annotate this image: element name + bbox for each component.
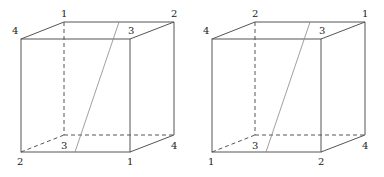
vertex-label: 4 bbox=[12, 25, 18, 36]
vertex-label: 1 bbox=[61, 8, 67, 19]
edge-top-left bbox=[21, 22, 64, 39]
vertex-label: 2 bbox=[318, 156, 324, 167]
vertex-label: 3 bbox=[128, 25, 134, 36]
vertex-label: 2 bbox=[252, 8, 258, 19]
vertex-label: 1 bbox=[362, 8, 368, 19]
diagram-canvas: 4 1 2 3 2 3 1 4 4 2 1 3 1 3 2 4 bbox=[0, 0, 384, 177]
vertex-label: 3 bbox=[319, 25, 325, 36]
vertex-label: 2 bbox=[17, 156, 23, 167]
vertex-label: 1 bbox=[127, 156, 133, 167]
edge-top-right bbox=[321, 22, 365, 39]
vertex-label: 2 bbox=[171, 8, 177, 19]
diagonal-line bbox=[266, 22, 310, 152]
vertex-label: 4 bbox=[203, 25, 209, 36]
vertex-label: 4 bbox=[171, 140, 177, 151]
hidden-edge-bottom-left bbox=[212, 135, 255, 152]
vertex-label: 3 bbox=[61, 140, 67, 151]
diagonal-line bbox=[75, 22, 119, 152]
cube-right: 4 2 1 3 1 3 2 4 bbox=[203, 8, 368, 167]
cube-left: 4 1 2 3 2 3 1 4 bbox=[12, 8, 177, 167]
vertex-label: 3 bbox=[252, 140, 258, 151]
vertex-label: 4 bbox=[362, 140, 368, 151]
vertex-label: 1 bbox=[208, 156, 214, 167]
edge-top-left bbox=[212, 22, 255, 39]
edge-top-right bbox=[130, 22, 174, 39]
hidden-edge-bottom-left bbox=[21, 135, 64, 152]
edge-bottom-right bbox=[321, 135, 365, 152]
edge-bottom-right bbox=[130, 135, 174, 152]
